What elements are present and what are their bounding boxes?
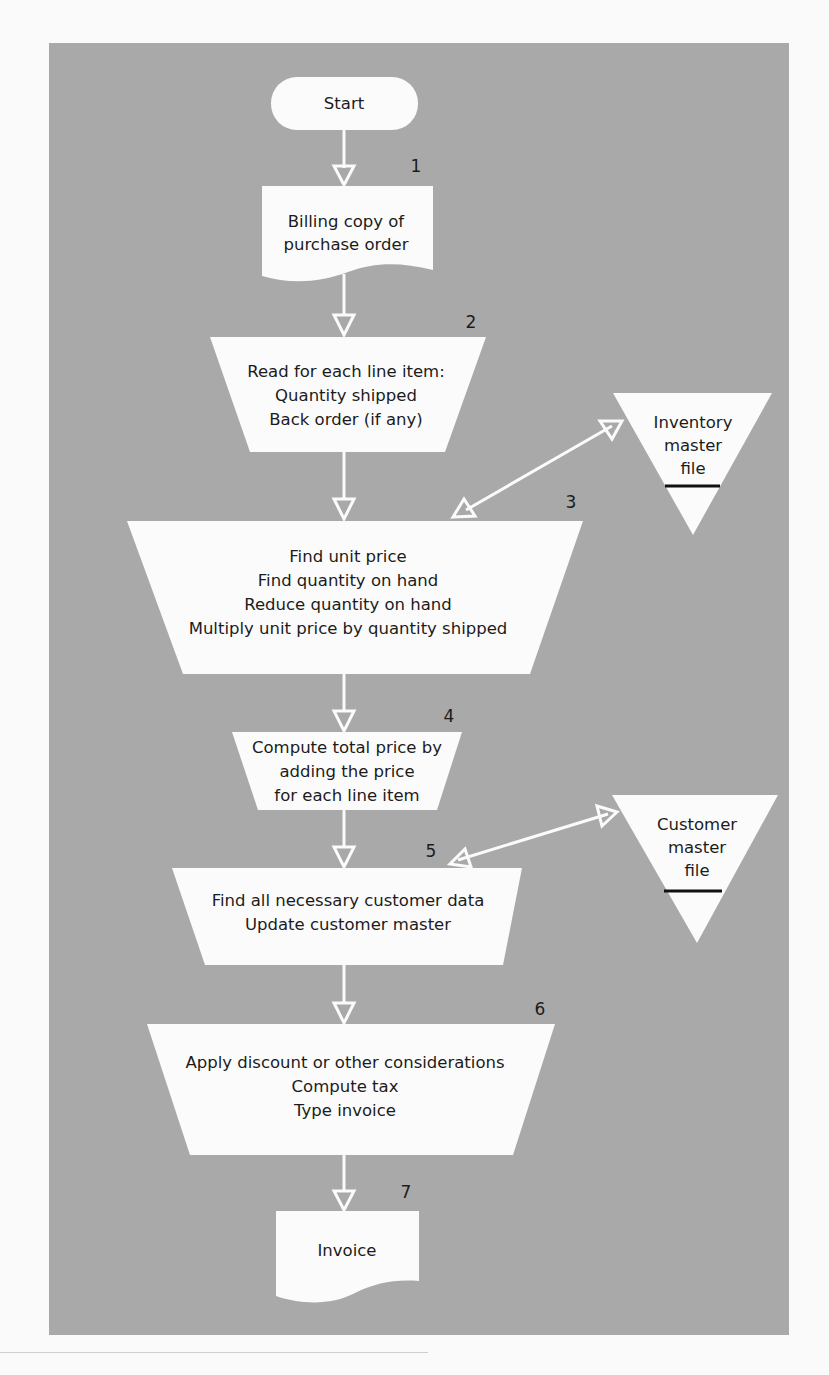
step-4-text-line: Compute total price by: [252, 738, 442, 757]
step-6-manual-operation: Apply discount or other considerations C…: [147, 999, 555, 1155]
arrow-down-icon: [334, 499, 354, 519]
step-3-text-line: Find unit price: [289, 547, 406, 566]
arrow-down-icon: [334, 1191, 354, 1210]
step-2-text-line: Quantity shipped: [275, 386, 417, 405]
step-3-text-line: Find quantity on hand: [258, 571, 438, 590]
step-3-text-line: Multiply unit price by quantity shipped: [189, 619, 508, 638]
step-3-manual-operation: Find unit price Find quantity on hand Re…: [127, 492, 583, 674]
customer-file-label: master: [668, 838, 726, 857]
step-2-text-line: Back order (if any): [269, 410, 422, 429]
step-4-text-line: for each line item: [274, 786, 419, 805]
inventory-file-label: file: [680, 459, 705, 478]
connector-step5-customer-file: [458, 814, 608, 860]
customer-master-file: Customer master file: [612, 795, 778, 943]
step-5-text-line: Update customer master: [245, 915, 451, 934]
connector-step3-inventory-file: [466, 426, 612, 510]
step-number: 4: [444, 706, 455, 726]
step-4-manual-operation: Compute total price by adding the price …: [232, 706, 462, 810]
step-6-text-line: Compute tax: [292, 1077, 399, 1096]
customer-file-label: file: [684, 861, 709, 880]
arrow-down-icon: [334, 847, 354, 867]
step-4-text-line: adding the price: [279, 762, 414, 781]
step-6-text-line: Apply discount or other considerations: [185, 1053, 504, 1072]
arrow-down-icon: [334, 1003, 354, 1023]
step-2-text-line: Read for each line item:: [247, 362, 445, 381]
billing-flowchart: Start Billing copy of purchase order 1 R…: [0, 0, 829, 1375]
step-3-text-line: Reduce quantity on hand: [244, 595, 452, 614]
arrow-down-icon: [334, 711, 354, 731]
step-1-document: Billing copy of purchase order 1: [262, 156, 433, 281]
step-5-text-line: Find all necessary customer data: [212, 891, 485, 910]
step-number: 2: [466, 312, 477, 332]
step-1-text-line: purchase order: [284, 235, 409, 254]
step-6-text-line: Type invoice: [293, 1101, 396, 1120]
step-2-manual-operation: Read for each line item: Quantity shippe…: [210, 312, 486, 452]
step-1-text-line: Billing copy of: [288, 212, 406, 231]
step-number: 3: [566, 492, 577, 512]
inventory-master-file: Inventory master file: [613, 393, 772, 535]
step-number: 5: [426, 841, 437, 861]
arrow-down-icon: [334, 315, 354, 335]
step-7-text-line: Invoice: [318, 1241, 377, 1260]
step-number: 1: [411, 156, 422, 176]
step-number: 6: [535, 999, 546, 1019]
start-label: Start: [324, 94, 365, 113]
customer-file-label: Customer: [657, 815, 737, 834]
start-terminal: Start: [271, 77, 418, 130]
arrow-bidirectional-icon: [597, 806, 617, 826]
step-number: 7: [401, 1182, 412, 1202]
inventory-file-label: master: [664, 436, 722, 455]
inventory-file-label: Inventory: [654, 413, 733, 432]
arrow-down-icon: [334, 166, 354, 185]
step-7-invoice-document: Invoice 7: [276, 1182, 419, 1302]
page-footer-rule: [0, 1352, 428, 1353]
